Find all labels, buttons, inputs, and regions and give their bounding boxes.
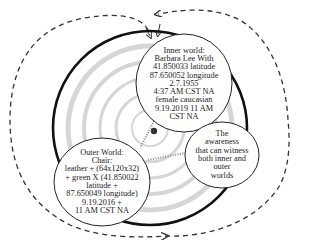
- outer-line: 11 AM CST NA: [75, 207, 129, 215]
- awareness-line: worlds: [211, 172, 234, 180]
- awareness-label: The awareness that can witness both inne…: [186, 122, 258, 188]
- inner-world-label: Inner world: Barbara Lee With 41.850033 …: [137, 36, 231, 132]
- inner-line: CST NA: [169, 113, 198, 121]
- outer-world-label: Outer World: Chair: leather + (64x120x32…: [55, 138, 149, 226]
